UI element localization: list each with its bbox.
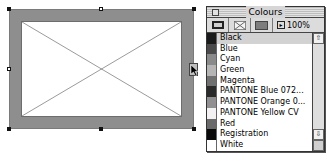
resize-handle-bottom-middle[interactable] (99, 127, 103, 131)
colour-item-pantone-orange[interactable]: PANTONE Orange 0... (207, 97, 312, 108)
colour-label: PANTONE Yellow CV (217, 108, 312, 119)
colour-item-pantone-yellow[interactable]: PANTONE Yellow CV (207, 108, 312, 119)
resize-handle-top-middle[interactable] (99, 7, 103, 11)
arrow-cursor-icon (190, 64, 199, 77)
colour-item-green[interactable]: Green (207, 65, 312, 76)
shade-arrow-icon: ▸ (277, 21, 285, 29)
colour-label: PANTONE Orange 0... (217, 97, 312, 108)
colour-item-pantone-blue[interactable]: PANTONE Blue 072... (207, 86, 312, 97)
colour-label: Registration (217, 129, 312, 140)
picture-frame[interactable] (9, 9, 194, 129)
resize-grow-box-icon[interactable] (313, 140, 324, 151)
fill-color-button[interactable] (251, 18, 273, 32)
color-swatch (207, 65, 217, 76)
colours-palette: Colours ▸ 100% Black (206, 6, 325, 152)
vertical-scrollbar[interactable]: ⇧ ⇩ (313, 33, 324, 151)
close-box-icon[interactable] (212, 9, 219, 16)
shade-value: 100% (287, 21, 310, 30)
colour-item-registration[interactable]: Registration (207, 129, 312, 140)
colour-item-black[interactable]: Black (207, 33, 312, 44)
colour-item-red[interactable]: Red (207, 119, 312, 130)
color-swatch (207, 33, 217, 44)
colour-label: Cyan (217, 54, 312, 65)
color-swatch (207, 86, 217, 97)
colour-item-white[interactable]: White (207, 140, 312, 151)
resize-handle-middle-right[interactable] (189, 63, 198, 76)
picture-frame-content-area (21, 21, 182, 117)
resize-handle-top-right[interactable] (192, 7, 196, 11)
colour-label: Red (217, 119, 312, 130)
palette-toolbar: ▸ 100% (207, 18, 324, 33)
fill-color-icon (255, 21, 268, 30)
colour-label: PANTONE Blue 072... (217, 86, 312, 97)
resize-handle-bottom-left[interactable] (7, 127, 11, 131)
color-swatch (207, 108, 217, 119)
resize-handle-middle-left[interactable] (7, 67, 11, 71)
no-color-icon (234, 21, 246, 30)
resize-handle-top-left[interactable] (7, 7, 11, 11)
color-swatch (207, 119, 217, 130)
no-color-button[interactable] (229, 18, 251, 32)
frame-color-button[interactable] (207, 18, 229, 32)
empty-frame-x-icon (22, 22, 181, 116)
colour-list: Black Blue Cyan Green Magenta PANTONE Bl… (207, 33, 313, 151)
colour-item-magenta[interactable]: Magenta (207, 76, 312, 87)
color-swatch (207, 97, 217, 108)
colour-label: Magenta (217, 76, 312, 87)
shade-dropdown[interactable]: ▸ 100% (273, 18, 324, 32)
colour-label: Black (217, 33, 312, 44)
palette-title-bar[interactable]: Colours (207, 7, 324, 18)
colour-label: White (217, 140, 312, 151)
colour-item-blue[interactable]: Blue (207, 44, 312, 55)
color-swatch (207, 54, 217, 65)
colour-label: Blue (217, 44, 312, 55)
color-swatch (207, 129, 217, 140)
color-swatch (207, 140, 217, 151)
color-swatch (207, 44, 217, 55)
resize-handle-bottom-right[interactable] (192, 127, 196, 131)
frame-color-icon (212, 21, 224, 29)
color-swatch (207, 76, 217, 87)
colour-label: Green (217, 65, 312, 76)
scroll-down-arrow-icon[interactable]: ⇩ (313, 129, 324, 140)
scroll-up-arrow-icon[interactable]: ⇧ (313, 33, 324, 44)
colour-item-cyan[interactable]: Cyan (207, 54, 312, 65)
palette-title: Colours (246, 6, 286, 18)
